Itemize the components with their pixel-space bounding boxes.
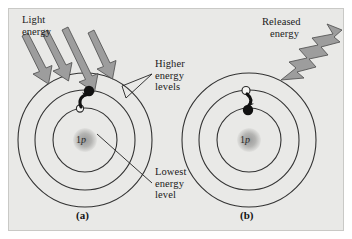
panel-caption-a: (a) xyxy=(76,209,89,221)
panel-b xyxy=(182,24,342,207)
nucleus-b-symbol: p xyxy=(245,134,250,145)
nucleus-a-symbol: p xyxy=(81,134,86,145)
label-released-line2: energy xyxy=(270,28,299,40)
label-higher-line3: levels xyxy=(155,81,180,92)
label-released-energy: Released energy xyxy=(262,16,301,39)
panel-caption-b: (b) xyxy=(240,209,253,221)
label-released-line1: Released xyxy=(262,16,301,27)
leader-lowest-level xyxy=(97,134,152,183)
label-light-energy-line1: Light xyxy=(22,14,45,25)
label-lowest-line2: energy xyxy=(155,178,184,189)
nucleus-label-b: 1p xyxy=(240,134,250,145)
transition-arrow-a xyxy=(80,95,88,108)
label-higher-energy-levels: Higher energy levels xyxy=(155,58,185,93)
figure-container: Light energy Higher energy levels Lowest… xyxy=(0,0,352,239)
leader-higher-levels xyxy=(122,74,152,98)
nucleus-label-a: 1p xyxy=(76,134,86,145)
panel-a xyxy=(18,27,152,207)
transition-arrow-b xyxy=(247,94,251,106)
label-lowest-line3: level xyxy=(155,189,176,200)
label-higher-line2: energy xyxy=(155,70,184,81)
label-higher-line1: Higher xyxy=(155,58,185,69)
label-light-energy: Light energy xyxy=(22,14,51,37)
label-lowest-energy-level: Lowest energy level xyxy=(155,166,187,201)
label-lowest-line1: Lowest xyxy=(155,166,187,177)
label-light-energy-line2: energy xyxy=(22,26,51,37)
